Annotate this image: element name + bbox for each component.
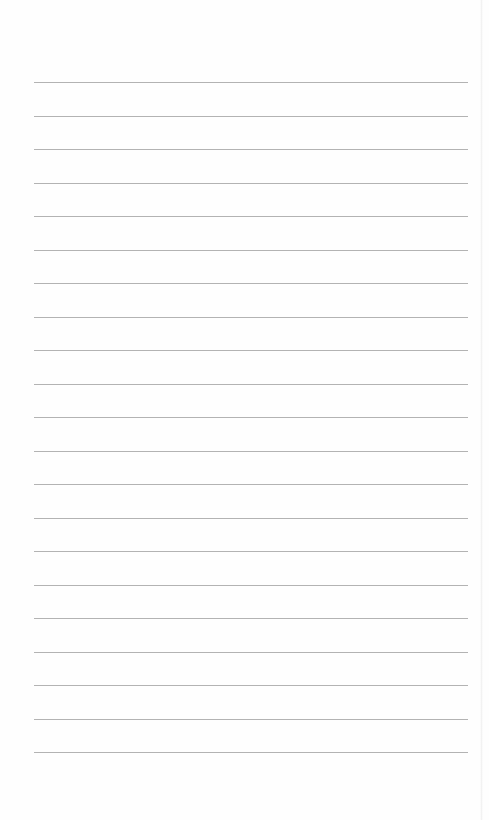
ruled-line <box>34 183 468 184</box>
ruled-line <box>34 518 468 519</box>
ruled-line <box>34 685 468 686</box>
ruled-line <box>34 618 468 619</box>
ruled-line <box>34 384 468 385</box>
ruled-line <box>34 317 468 318</box>
ruled-line <box>34 585 468 586</box>
page-edge-shadow <box>480 0 483 820</box>
ruled-line <box>34 82 468 83</box>
ruled-line <box>34 719 468 720</box>
ruled-line <box>34 149 468 150</box>
ruled-line <box>34 216 468 217</box>
ruled-line <box>34 451 468 452</box>
ruled-line <box>34 652 468 653</box>
ruled-line <box>34 350 468 351</box>
ruled-line <box>34 484 468 485</box>
lined-paper-page <box>0 0 489 820</box>
ruled-line <box>34 250 468 251</box>
ruled-line <box>34 116 468 117</box>
ruled-line <box>34 283 468 284</box>
ruled-line <box>34 551 468 552</box>
ruled-line <box>34 752 468 753</box>
ruled-line <box>34 417 468 418</box>
